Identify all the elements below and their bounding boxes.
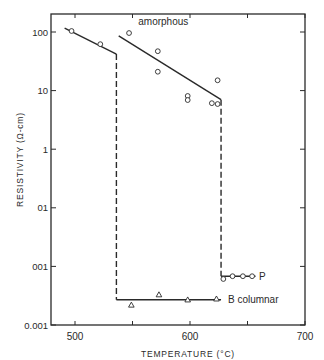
series-line bbox=[119, 36, 221, 100]
circle-marker bbox=[230, 274, 235, 279]
circle-marker bbox=[209, 101, 214, 106]
circle-marker bbox=[69, 29, 74, 34]
y-tick-label: 0.001 bbox=[24, 320, 48, 331]
series-label: B columnar bbox=[228, 294, 279, 305]
triangle-marker bbox=[156, 292, 162, 297]
triangle-marker bbox=[214, 296, 220, 301]
x-tick-label: 500 bbox=[67, 331, 84, 342]
circle-marker bbox=[241, 274, 246, 279]
y-tick-label: 10 bbox=[37, 85, 48, 96]
triangle-marker bbox=[129, 302, 135, 307]
x-tick-label: 700 bbox=[297, 331, 314, 342]
circle-marker bbox=[155, 69, 160, 74]
x-axis-label: TEMPERATURE (°C) bbox=[141, 349, 235, 359]
circle-marker bbox=[155, 49, 160, 54]
circle-marker bbox=[250, 274, 255, 279]
series-label: P bbox=[259, 271, 266, 282]
circle-marker bbox=[127, 31, 132, 36]
y-tick-label: 01 bbox=[37, 202, 48, 213]
plot-axes: 500600700100101010010.001TEMPERATURE (°C… bbox=[15, 14, 314, 359]
y-tick-label: 001 bbox=[32, 261, 48, 272]
resistivity-chart: 500600700100101010010.001TEMPERATURE (°C… bbox=[0, 0, 324, 360]
circle-marker bbox=[221, 277, 226, 282]
y-tick-label: 1 bbox=[43, 144, 48, 155]
y-tick-label: 100 bbox=[32, 27, 48, 38]
plot-frame bbox=[51, 14, 305, 325]
y-axis-label: RESISTIVITY (Ω-cm) bbox=[15, 112, 25, 207]
circle-marker bbox=[215, 102, 220, 107]
plot-series bbox=[65, 28, 256, 307]
series-label: amorphous bbox=[138, 16, 188, 27]
x-tick-label: 600 bbox=[182, 331, 199, 342]
circle-marker bbox=[185, 98, 190, 103]
circle-marker bbox=[98, 42, 103, 47]
circle-marker bbox=[215, 78, 220, 83]
plot-labels: amorphousPB columnar bbox=[138, 16, 279, 305]
